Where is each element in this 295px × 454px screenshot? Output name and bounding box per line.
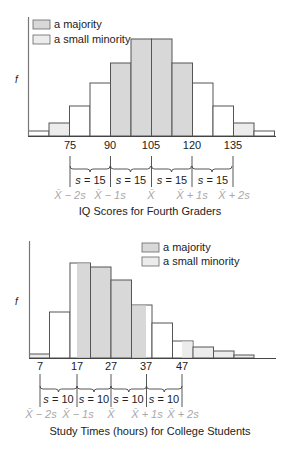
- bar: [91, 267, 112, 358]
- bar: [234, 123, 255, 136]
- sd-marker-label: X̄: [101, 408, 121, 420]
- bar: [193, 83, 214, 136]
- bar: [172, 63, 193, 136]
- x-tick: 120: [180, 139, 204, 151]
- sd-marker-label: X̄ − 1s: [60, 408, 96, 420]
- sd-interval-label: s = 10: [77, 393, 111, 405]
- x-tick: 105: [139, 139, 163, 151]
- x-tick: 17: [67, 360, 87, 372]
- y-axis-label: f: [15, 74, 18, 85]
- sd-marker-label: X̄ − 2s: [22, 408, 60, 420]
- sd-interval-label: s = 10: [111, 393, 146, 405]
- bar: [254, 131, 275, 136]
- chart-caption: IQ Scores for Fourth Graders: [50, 205, 250, 217]
- sd-marker-label: X̄ + 2s: [164, 408, 202, 420]
- legend-swatch-minority: [33, 35, 50, 44]
- bar: [49, 123, 70, 136]
- y-axis-label: f: [15, 296, 18, 307]
- bar: [90, 83, 111, 136]
- legend-swatch-minority: [142, 257, 159, 266]
- legend-swatch-majority: [142, 243, 159, 252]
- sd-marker-label: X̄ + 2s: [213, 189, 255, 201]
- x-tick: 7: [32, 360, 48, 372]
- sd-interval-label: s = 15: [72, 174, 109, 186]
- x-tick: 37: [136, 360, 156, 372]
- bar: [234, 355, 254, 358]
- bar: [111, 280, 132, 358]
- figure: [0, 0, 295, 454]
- bar: [193, 347, 214, 358]
- bar: [131, 39, 152, 136]
- x-tick: 47: [172, 360, 192, 372]
- x-tick: 135: [221, 139, 245, 151]
- sd-interval-label: s = 15: [112, 174, 150, 186]
- bar: [111, 63, 132, 136]
- sd-interval-label: s = 10: [40, 393, 77, 405]
- legend-label-minority: a small minority: [163, 255, 239, 267]
- sd-interval-label: s = 15: [194, 174, 232, 186]
- sd-marker-label: X̄ − 1s: [90, 189, 130, 201]
- legend-label-majority: a majority: [54, 18, 102, 30]
- legend-label-minority: a small minority: [54, 33, 130, 45]
- x-tick: 75: [60, 139, 80, 151]
- sd-marker-label: X̄ − 2s: [50, 189, 90, 201]
- sd-interval-label: s = 10: [146, 393, 182, 405]
- x-tick: 27: [101, 360, 121, 372]
- sd-marker-label: X̄ + 1s: [128, 408, 166, 420]
- bar: [50, 312, 71, 358]
- bar: [214, 351, 235, 358]
- bar: [152, 323, 173, 358]
- sd-interval-label: s = 15: [153, 174, 191, 186]
- sd-marker-label: X̄ + 1s: [172, 189, 212, 201]
- sd-marker-label: X̄: [141, 189, 161, 201]
- bar: [29, 131, 50, 136]
- legend-swatch-majority: [33, 20, 50, 29]
- x-tick: 90: [100, 139, 120, 151]
- chart-caption: Study Times (hours) for College Students: [40, 425, 260, 437]
- legend-label-majority: a majority: [163, 241, 211, 253]
- bar: [213, 106, 234, 136]
- bar: [152, 39, 173, 136]
- bar: [70, 106, 91, 136]
- bar: [30, 354, 50, 358]
